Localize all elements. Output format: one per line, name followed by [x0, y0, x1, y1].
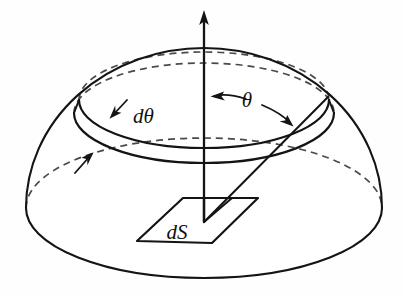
dS-label: dS — [167, 220, 189, 244]
d-theta-label: dθ — [133, 104, 154, 128]
figure-root: θ dθ dS — [0, 0, 404, 295]
hemisphere-diagram: θ dθ dS — [0, 0, 404, 295]
theta-label: θ — [242, 88, 252, 112]
